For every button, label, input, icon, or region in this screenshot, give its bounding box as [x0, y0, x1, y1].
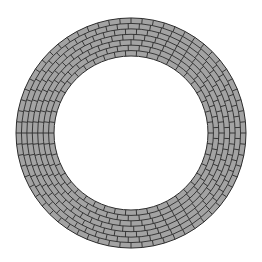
brick-ring-diagram — [0, 0, 262, 262]
brick-ring-graphic — [0, 0, 262, 262]
